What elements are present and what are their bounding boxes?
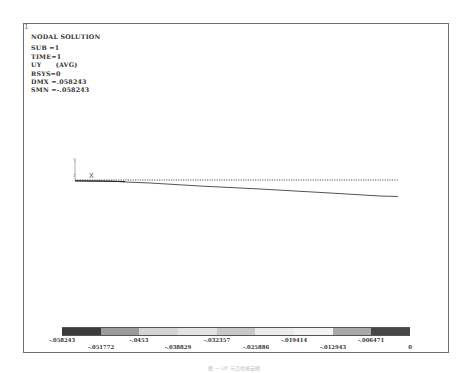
legend-value: -.0453: [130, 337, 149, 343]
legend-segment: [217, 328, 256, 335]
coordinate-triad-icon: Y Z X: [72, 157, 94, 180]
triad-y-label: Y: [72, 157, 77, 163]
legend-segment: [62, 328, 101, 335]
triad-x-label: X: [89, 172, 94, 180]
legend-value: -.006471: [358, 337, 384, 343]
legend-value: -.019414: [281, 337, 307, 343]
legend-value: -.038829: [165, 344, 191, 350]
legend-value: -.032357: [204, 337, 230, 343]
legend-value: -.051772: [88, 344, 114, 350]
legend-segment: [101, 328, 140, 335]
deformed-shape-line: [75, 181, 398, 197]
triad-z-label: Z: [73, 173, 76, 178]
legend-value: -.025886: [243, 344, 269, 350]
legend-segment: [294, 328, 333, 335]
legend-value: -.058243: [49, 337, 75, 343]
legend-value: 0: [408, 344, 412, 350]
legend-value: -.012943: [320, 344, 346, 350]
model-plot: Y Z X: [0, 0, 468, 373]
legend-segment: [139, 328, 178, 335]
figure-caption: 图 — UY 节点位移云图: [0, 364, 468, 371]
deformed-shape-root: [75, 181, 125, 182]
legend-segment: [371, 328, 410, 335]
legend-segment: [178, 328, 217, 335]
legend-segment: [333, 328, 372, 335]
legend-segment: [255, 328, 294, 335]
contour-legend-bar: [62, 327, 410, 336]
